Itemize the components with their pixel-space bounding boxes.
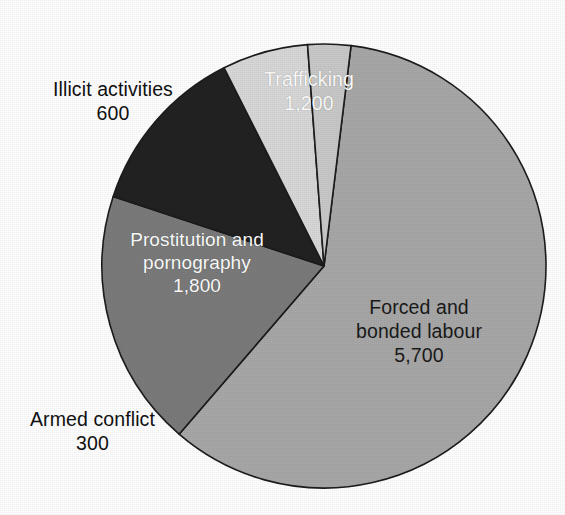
slice-label-line2: pornography — [104, 251, 290, 274]
pie-chart: Forced and bonded labour 5,700 Prostitut… — [0, 0, 565, 515]
slice-label-prostitution-and-pornography: Prostitution and pornography 1,800 — [104, 228, 290, 298]
slice-label-line1: Illicit activities — [18, 78, 208, 102]
slice-label-forced-and-bonded-labour: Forced and bonded labour 5,700 — [336, 296, 502, 367]
slice-value: 300 — [5, 432, 180, 456]
slice-value: 1,800 — [104, 274, 290, 297]
slice-value: 1,200 — [240, 92, 378, 116]
slice-label-illicit-activities: Illicit activities 600 — [18, 78, 208, 126]
slice-value: 600 — [18, 102, 208, 126]
slice-label-trafficking: Trafficking 1,200 — [240, 68, 378, 116]
slice-label-line1: Prostitution and — [104, 228, 290, 251]
slice-label-line1: Armed conflict — [5, 408, 180, 432]
slice-label-line1: Trafficking — [240, 68, 378, 92]
slice-label-line2: bonded labour — [336, 320, 502, 344]
slice-value: 5,700 — [336, 344, 502, 368]
slice-label-line1: Forced and — [336, 296, 502, 320]
slice-label-armed-conflict: Armed conflict 300 — [5, 408, 180, 456]
